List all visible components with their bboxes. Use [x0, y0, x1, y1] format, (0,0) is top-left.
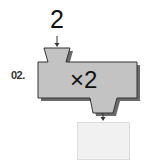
- problem-number: 02.: [11, 69, 25, 81]
- input-value: 2: [50, 7, 64, 32]
- output-answer-box[interactable]: [77, 122, 130, 160]
- input-arrow-icon: [55, 36, 60, 47]
- operation-label: ×2: [70, 67, 97, 93]
